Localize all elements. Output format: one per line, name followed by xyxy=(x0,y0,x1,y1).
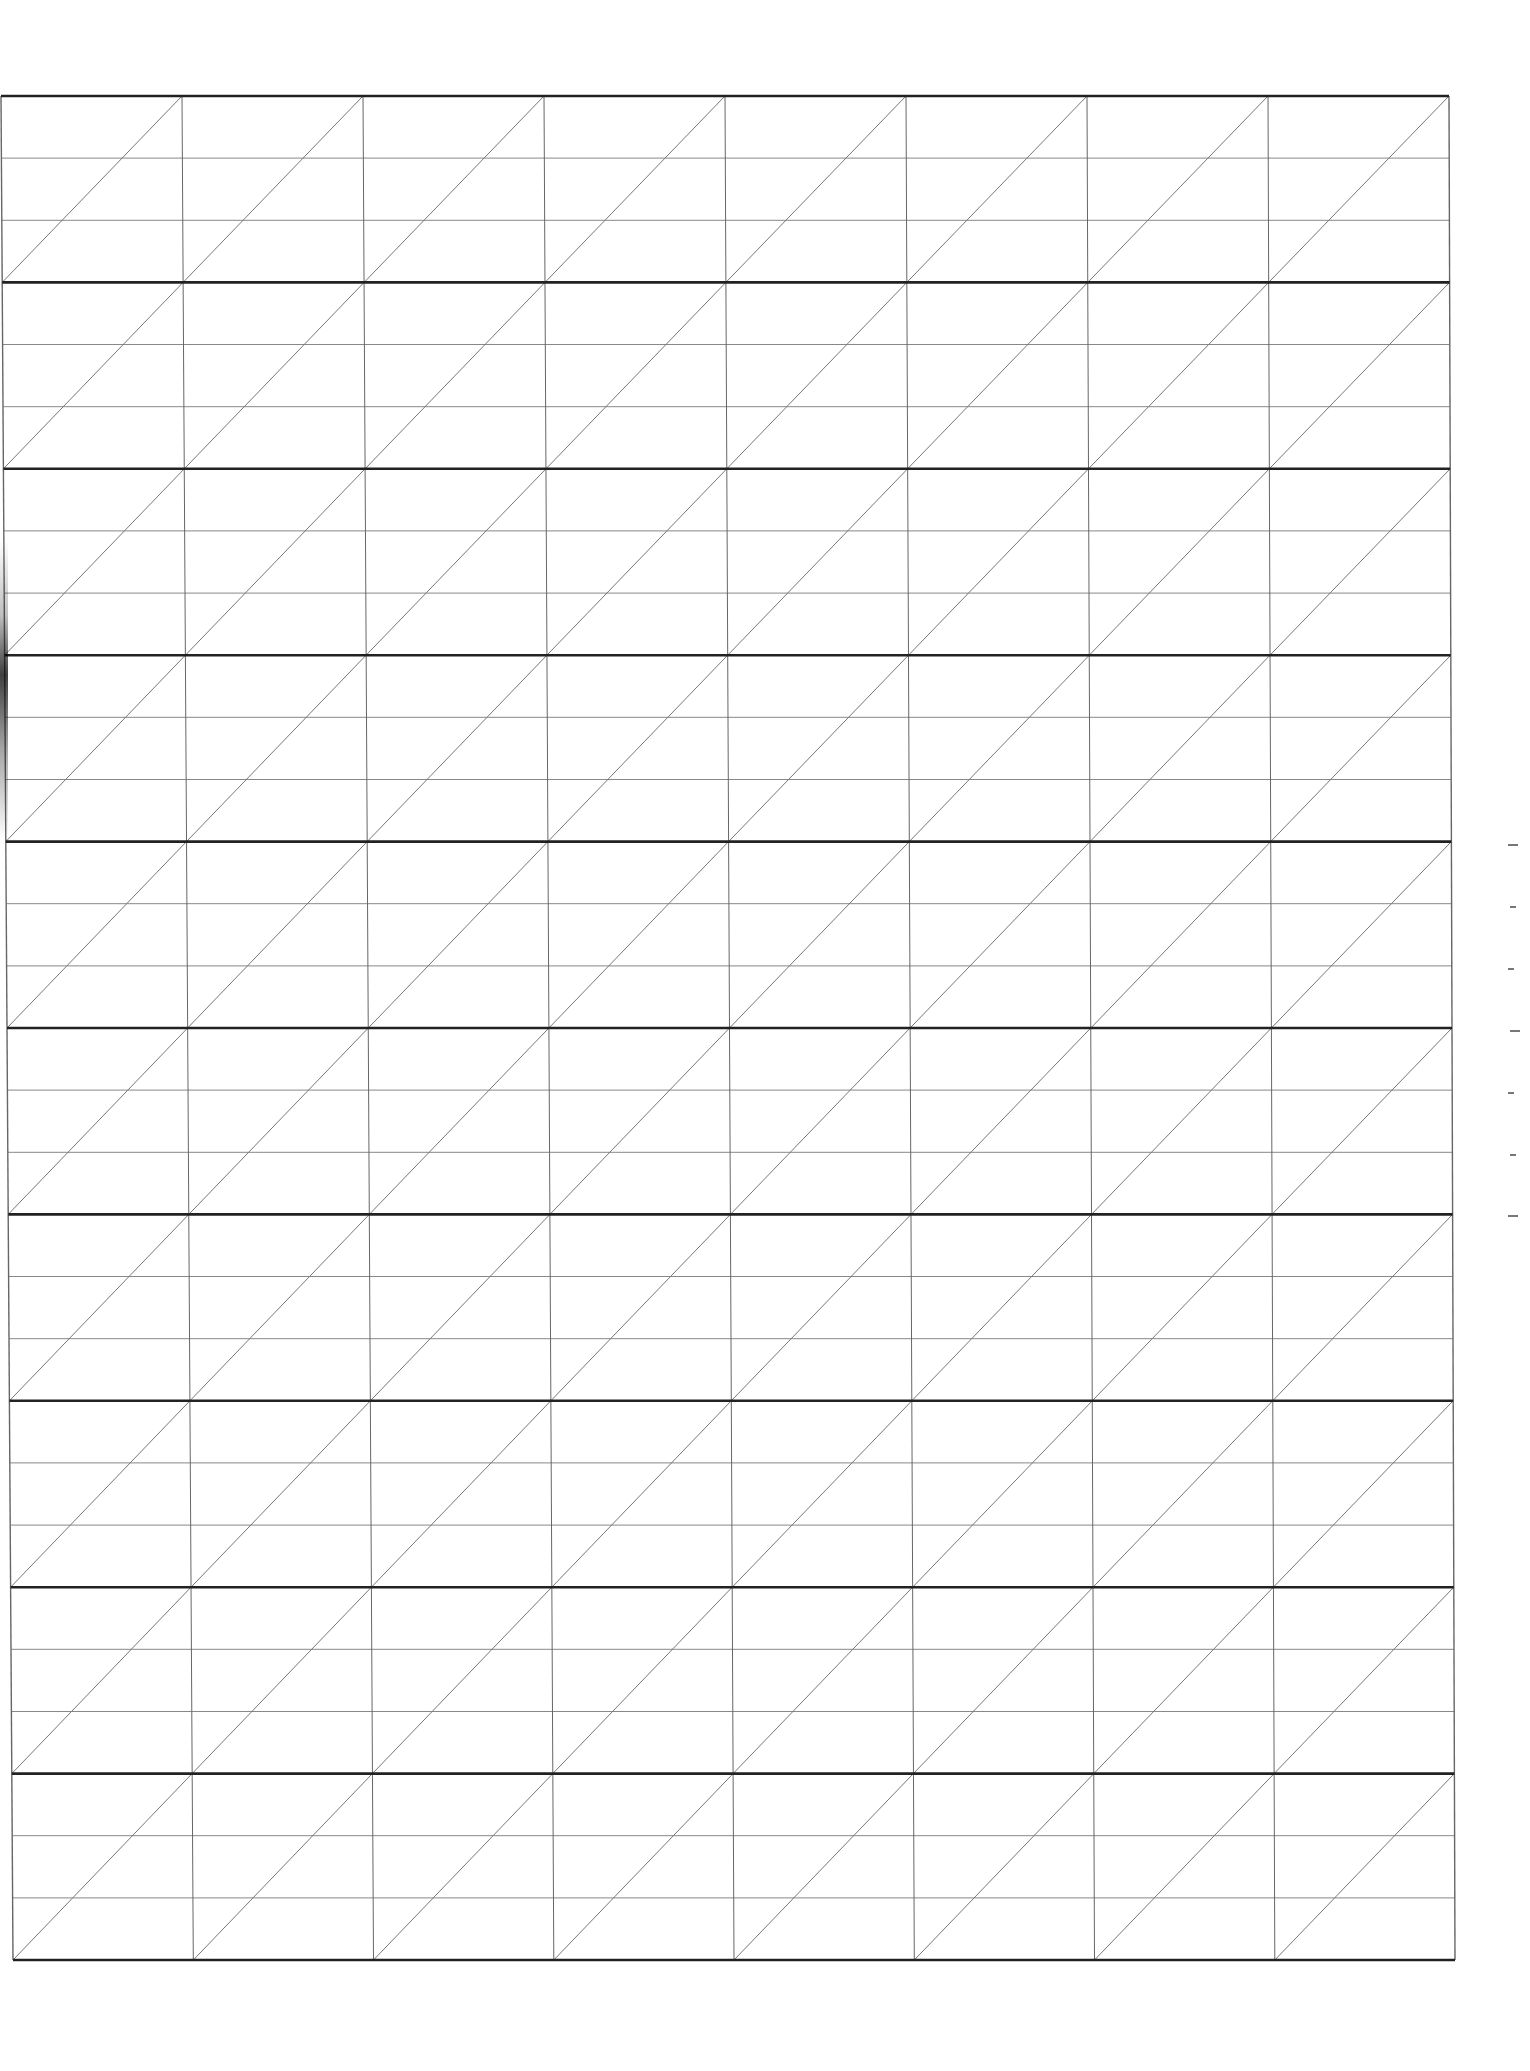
diagonal-guide-line xyxy=(1095,1774,1275,1960)
diagonal-guide-line xyxy=(13,1774,192,1960)
diagonal-guide-line xyxy=(1093,1401,1273,1587)
diagonal-guide-line xyxy=(1272,1028,1452,1214)
diagonal-guide-line xyxy=(1270,469,1450,655)
slant-grid xyxy=(0,0,1530,2071)
diagonal-guide-line xyxy=(372,1587,551,1773)
diagonal-guide-line xyxy=(184,282,364,468)
diagonal-guide-line xyxy=(1273,1401,1453,1587)
diagonal-guide-line xyxy=(732,1401,912,1587)
diagonal-guide-line xyxy=(907,96,1087,282)
diagonal-guide-line xyxy=(11,1401,190,1587)
diagonal-guide-line xyxy=(192,1587,371,1773)
diagonal-guide-line xyxy=(1092,1028,1272,1214)
diagonal-guide-line xyxy=(1088,96,1268,282)
diagonal-guide-line xyxy=(914,1774,1094,1960)
margin-tick xyxy=(1510,1030,1520,1032)
diagonal-guide-line xyxy=(727,282,907,468)
margin-tick xyxy=(1508,968,1514,970)
diagonal-guide-line xyxy=(908,282,1088,468)
diagonal-guide-line xyxy=(546,282,726,468)
diagonal-guide-line xyxy=(364,96,544,282)
diagonal-guide-line xyxy=(365,282,545,468)
diagonal-guide-line xyxy=(1271,655,1451,841)
diagonal-guide-line xyxy=(9,1214,188,1400)
diagonal-guide-line xyxy=(370,1214,550,1400)
diagonal-guide-line xyxy=(368,842,548,1028)
diagonal-guide-line xyxy=(193,1774,372,1960)
diagonal-guide-line xyxy=(730,842,910,1028)
diagonal-guide-line xyxy=(913,1401,1093,1587)
diagonal-guide-line xyxy=(549,842,729,1028)
diagonal-guide-line xyxy=(367,655,547,841)
diagonal-guide-line xyxy=(733,1587,913,1773)
diagonal-guide-line xyxy=(734,1774,913,1960)
diagonal-guide-line xyxy=(547,469,727,655)
diagonal-guide-line xyxy=(1274,1587,1454,1773)
diagonal-guide-line xyxy=(1273,1214,1453,1400)
margin-tick xyxy=(1508,1215,1518,1217)
diagonal-guide-line xyxy=(369,1028,549,1214)
diagonal-guide-line xyxy=(6,655,186,841)
practice-grid-sheet xyxy=(0,0,1530,2071)
diagonal-guide-line xyxy=(366,469,546,655)
diagonal-guide-line xyxy=(191,1401,370,1587)
diagonal-guide-line xyxy=(554,1774,733,1960)
diagonal-guide-line xyxy=(1275,1774,1455,1960)
diagonal-guide-line xyxy=(910,842,1090,1028)
diagonal-guide-line xyxy=(5,469,185,655)
diagonal-guide-line xyxy=(12,1587,191,1773)
diagonal-guide-line xyxy=(1089,469,1269,655)
diagonal-guide-line xyxy=(185,469,365,655)
diagonal-guide-line xyxy=(1269,96,1449,282)
diagonal-guide-line xyxy=(8,1028,187,1214)
diagonal-guide-line xyxy=(1094,1587,1274,1773)
diagonal-guide-line xyxy=(188,842,368,1028)
diagonal-guide-line xyxy=(189,1028,368,1214)
diagonal-guide-line xyxy=(909,469,1089,655)
diagonal-guide-line xyxy=(548,655,728,841)
diagonal-guide-line xyxy=(7,842,187,1028)
diagonal-guide-line xyxy=(731,1214,911,1400)
diagonal-guide-line xyxy=(374,1774,553,1960)
margin-tick xyxy=(1508,1092,1514,1094)
diagonal-guide-line xyxy=(909,655,1089,841)
diagonal-guide-line xyxy=(726,96,906,282)
diagonal-guide-line xyxy=(183,96,363,282)
diagonal-guide-line xyxy=(730,1028,910,1214)
scan-edge-shadow xyxy=(0,540,8,840)
diagonal-guide-line xyxy=(545,96,725,282)
diagonal-guide-line xyxy=(3,282,183,468)
diagonal-guide-line xyxy=(550,1028,730,1214)
diagonal-guide-line xyxy=(190,1214,369,1400)
diagonal-guide-line xyxy=(553,1587,732,1773)
diagonal-guide-line xyxy=(912,1214,1092,1400)
diagonal-guide-line xyxy=(1089,282,1269,468)
diagonal-guide-line xyxy=(2,96,182,282)
diagonal-guide-line xyxy=(728,469,908,655)
diagonal-guide-line xyxy=(729,655,909,841)
diagonal-guide-line xyxy=(1091,842,1271,1028)
diagonal-guide-line xyxy=(371,1401,550,1587)
margin-tick xyxy=(1508,844,1518,846)
diagonal-guide-line xyxy=(1092,1214,1272,1400)
diagonal-guide-line xyxy=(551,1214,731,1400)
margin-tick xyxy=(1510,906,1516,908)
diagonal-guide-line xyxy=(913,1587,1093,1773)
diagonal-guide-line xyxy=(1090,655,1270,841)
diagonal-guide-line xyxy=(1269,282,1449,468)
margin-tick xyxy=(1510,1154,1516,1156)
diagonal-guide-line xyxy=(552,1401,732,1587)
diagonal-guide-line xyxy=(1271,842,1451,1028)
diagonal-guide-line xyxy=(911,1028,1091,1214)
diagonal-guide-line xyxy=(187,655,367,841)
